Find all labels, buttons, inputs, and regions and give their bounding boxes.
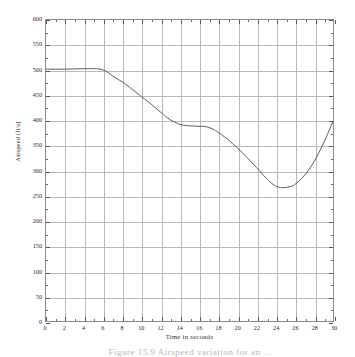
y-tick-label: 150 [16, 243, 42, 249]
y-tick-label: 50 [16, 294, 42, 300]
x-tick-label: 16 [190, 324, 208, 331]
x-tick-label: 22 [248, 324, 266, 331]
y-tick-label: 450 [16, 92, 42, 98]
y-tick-label: 350 [16, 142, 42, 148]
x-tick-label: 20 [229, 324, 247, 331]
y-tick-label: 400 [16, 117, 42, 123]
plot-area [45, 19, 334, 322]
x-tick-label: 26 [286, 324, 304, 331]
x-tick-label: 14 [171, 324, 189, 331]
x-tick-mark [335, 20, 336, 24]
x-tick-label: 10 [132, 324, 150, 331]
x-tick-label: 4 [75, 324, 93, 331]
x-tick-label: 8 [113, 324, 131, 331]
x-tick-label: 6 [94, 324, 112, 331]
x-tick-label: 18 [209, 324, 227, 331]
x-tick-label: 30 [325, 324, 343, 331]
x-tick-label: 28 [306, 324, 324, 331]
x-tick-label: 2 [55, 324, 73, 331]
airspeed-figure: Airspeed (ft/s) 050100150200250300350400… [0, 0, 355, 357]
x-tick-mark [335, 317, 336, 321]
y-tick-label: 250 [16, 193, 42, 199]
y-tick-label: 200 [16, 218, 42, 224]
figure-caption: Figure 15.9 Airspeed variation for an ..… [45, 347, 335, 357]
x-axis-title: Time in seconds [45, 333, 334, 340]
x-tick-label: 12 [152, 324, 170, 331]
x-tick-label: 24 [267, 324, 285, 331]
y-tick-label: 500 [16, 66, 42, 72]
y-axis-tick-labels: 050100150200250300350400450500550600 [16, 0, 42, 357]
x-tick-label: 0 [36, 324, 54, 331]
airspeed-curve [46, 20, 333, 321]
y-tick-label: 300 [16, 167, 42, 173]
y-tick-label: 600 [16, 16, 42, 22]
y-tick-label: 100 [16, 268, 42, 274]
airspeed-curve-path [46, 69, 333, 188]
y-tick-label: 550 [16, 41, 42, 47]
